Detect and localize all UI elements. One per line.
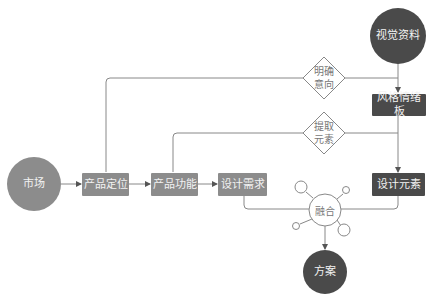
node-product-positioning-label: 产品定位 [84,178,128,192]
node-solution: 方案 [303,250,347,294]
node-solution-label: 方案 [314,265,336,279]
node-design-elements-label: 设计元素 [377,178,421,192]
node-fusion-label: 融合 [315,203,335,218]
node-market: 市场 [7,157,61,211]
node-design-requirements: 设计需求 [218,173,267,196]
node-style-moodboard: 风格情绪板 [372,94,426,116]
node-product-positioning: 产品定位 [82,173,129,196]
node-visual-materials: 视觉资料 [370,8,426,64]
flow-connectors [0,0,427,301]
decision-clarify-intent: 明确 意向 [306,62,342,94]
decision-extract-elements-line1: 提取 [314,120,334,133]
decision-clarify-intent-line1: 明确 [314,65,334,78]
node-market-label: 市场 [23,177,45,191]
node-visual-materials-label: 视觉资料 [376,29,420,43]
node-product-function: 产品功能 [151,173,198,196]
node-style-moodboard-label: 风格情绪板 [372,91,426,119]
decision-extract-elements-line2: 元素 [314,133,334,146]
node-design-requirements-label: 设计需求 [221,178,265,192]
node-product-function-label: 产品功能 [153,178,197,192]
node-design-elements: 设计元素 [372,173,425,196]
node-fusion: 融合 [309,194,341,226]
decision-clarify-intent-line2: 意向 [314,78,334,91]
decision-extract-elements: 提取 元素 [306,117,342,149]
